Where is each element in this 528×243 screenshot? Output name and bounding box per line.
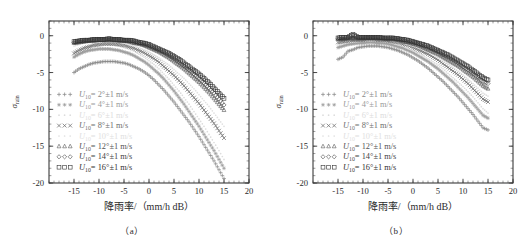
y-tick-label: -20	[33, 178, 44, 188]
y-tick-label: -15	[33, 141, 44, 151]
plot-a: -15-10-5051015200-5-10-15-20U10= 2°±1 m/…	[0, 0, 264, 243]
x-tick-label: 0	[147, 186, 151, 196]
y-tick-label: 0	[40, 31, 44, 41]
x-tick-label: 15	[220, 186, 229, 196]
x-tick-label: -5	[384, 186, 391, 196]
chart-panel-b: -15-10-5051015200-5-10-15-20U10= 2°±1 m/…	[264, 0, 528, 243]
x-tick-label: 10	[195, 186, 204, 196]
x-tick-labels: -15-10-505101520	[332, 186, 517, 196]
plot-b: -15-10-5051015200-5-10-15-20U10= 2°±1 m/…	[264, 0, 528, 243]
x-tick-label: 5	[436, 186, 440, 196]
x-tick-label: -15	[332, 186, 343, 196]
x-tick-labels: -15-10-505101520	[68, 186, 253, 196]
y-tick-label: -10	[297, 104, 308, 114]
y-tick-labels: 0-5-10-15-20	[297, 31, 308, 188]
y-tick-label: -5	[37, 68, 44, 78]
x-tick-label: 20	[509, 186, 518, 196]
x-tick-label: 5	[172, 186, 176, 196]
y-axis-label: σrain	[273, 95, 284, 108]
x-axis-label: 降雨率/（mm/h dB）	[104, 200, 194, 212]
x-tick-label: -10	[357, 186, 368, 196]
panel-caption-b: （b）	[264, 224, 528, 237]
svg-text:σrain: σrain	[273, 95, 284, 108]
y-tick-label: -5	[301, 68, 308, 78]
x-axis-label: 降雨率/（mm/h dB）	[368, 200, 458, 212]
x-tick-label: 0	[411, 186, 415, 196]
panel-caption-a: （a）	[0, 224, 264, 237]
figure-container: -15-10-5051015200-5-10-15-20U10= 2°±1 m/…	[0, 0, 528, 243]
y-tick-labels: 0-5-10-15-20	[33, 31, 44, 188]
y-tick-label: 0	[304, 31, 308, 41]
y-axis-label: σrain	[9, 95, 20, 108]
x-tick-label: -10	[93, 186, 104, 196]
x-tick-label: 10	[459, 186, 468, 196]
x-tick-label: -5	[120, 186, 127, 196]
x-tick-label: 20	[245, 186, 254, 196]
y-tick-label: -10	[33, 104, 44, 114]
svg-text:σrain: σrain	[9, 95, 20, 108]
chart-panel-a: -15-10-5051015200-5-10-15-20U10= 2°±1 m/…	[0, 0, 264, 243]
y-tick-label: -20	[297, 178, 308, 188]
x-tick-label: -15	[68, 186, 79, 196]
x-tick-label: 15	[484, 186, 493, 196]
y-tick-label: -15	[297, 141, 308, 151]
